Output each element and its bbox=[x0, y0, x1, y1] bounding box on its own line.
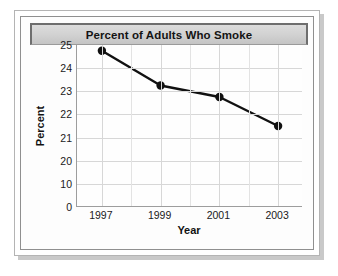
y-tick-label: 20 bbox=[60, 155, 72, 167]
y-tick-label: 0 bbox=[66, 201, 72, 213]
y-tick-label: 25 bbox=[60, 39, 72, 51]
y-axis-title: Percent bbox=[34, 106, 46, 146]
y-tick-label: 22 bbox=[60, 108, 72, 120]
x-axis-title: Year bbox=[76, 224, 302, 236]
y-axis-tick-labels: 010202122232425 bbox=[48, 45, 74, 207]
vertical-gridline bbox=[219, 45, 220, 206]
x-tick-label: 2003 bbox=[265, 209, 288, 221]
vertical-gridline-minor bbox=[249, 45, 250, 206]
plot-area bbox=[76, 45, 302, 207]
vertical-gridline-minor bbox=[131, 45, 132, 206]
x-axis-tick-labels: 1997199920012003 bbox=[76, 209, 302, 225]
figure-frame: Percent of Adults Who Smoke Percent 0102… bbox=[14, 10, 320, 256]
y-tick-label: 24 bbox=[60, 62, 72, 74]
vertical-gridline bbox=[102, 45, 103, 206]
y-axis-title-wrap: Percent bbox=[32, 45, 48, 207]
vertical-gridline bbox=[278, 45, 279, 206]
figure-inner-border: Percent of Adults Who Smoke Percent 0102… bbox=[20, 16, 314, 250]
x-tick-label: 2001 bbox=[207, 209, 230, 221]
y-tick-label: 10 bbox=[60, 178, 72, 190]
vertical-gridline-minor bbox=[190, 45, 191, 206]
x-tick-label: 1997 bbox=[89, 209, 112, 221]
vertical-gridline bbox=[161, 45, 162, 206]
chart-title: Percent of Adults Who Smoke bbox=[86, 29, 253, 41]
y-tick-label: 23 bbox=[60, 85, 72, 97]
x-tick-label: 1999 bbox=[148, 209, 171, 221]
chart-body: Percent 010202122232425 1997199920012003… bbox=[30, 45, 308, 245]
y-tick-label: 21 bbox=[60, 132, 72, 144]
